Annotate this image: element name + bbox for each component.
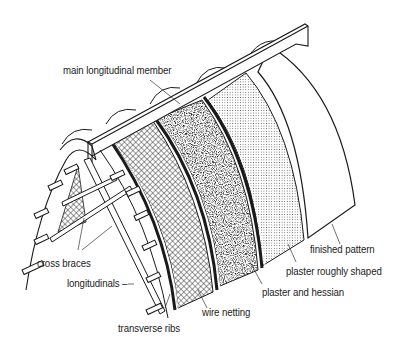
diagram-canvas: main longitudinal member cross braces lo… [0,0,400,353]
label-wire-netting: wire netting [202,306,250,318]
label-plaster-and-hessian: plaster and hessian [262,286,344,298]
label-cross-braces: cross braces [37,257,91,269]
label-plaster-roughly-shaped: plaster roughly shaped [286,265,382,277]
pattern-construction-drawing [0,0,400,353]
label-longitudinals: longitudinals – [67,277,127,289]
label-finished-pattern: finished pattern [310,243,375,255]
label-transverse-ribs: transverse ribs [118,322,180,334]
label-main-longitudinal-member: main longitudinal member [63,64,171,76]
